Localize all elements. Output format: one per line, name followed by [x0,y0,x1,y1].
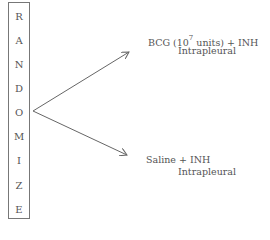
saline-arm-route: Intrapleural [178,166,236,177]
saline-arm-label: Saline + INH [146,154,210,165]
bcg-arm-route: Intrapleural [178,45,236,56]
arrow-to-saline-arm [33,111,127,155]
arrow-to-bcg-arm [33,52,129,111]
